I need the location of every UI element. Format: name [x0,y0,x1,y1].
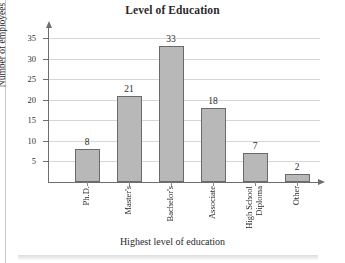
bar[interactable] [243,153,268,182]
category-label-line: Other [292,186,301,205]
x-axis-category-label: Ph.D. [82,186,91,205]
category-label-line: High School [245,186,254,229]
x-axis-line [48,182,320,183]
y-axis-arrow-icon [46,21,52,28]
bar[interactable] [75,149,100,182]
y-axis-tick-label: 30 [12,54,36,64]
y-axis-tick-label: 25 [12,74,36,84]
x-axis-category-label: Other [292,186,301,205]
x-axis-category-label: Associate [208,186,217,219]
bar[interactable] [201,108,226,182]
bar-group[interactable]: 7 [243,30,268,182]
bar-value-label: 2 [295,162,300,172]
category-label-line: Bachelor's [166,186,175,222]
x-axis-category-labels: Ph.D.Master'sBachelor'sAssociateHigh Sch… [48,186,320,234]
bar[interactable] [159,46,184,182]
category-label-line: Ph.D. [82,186,91,205]
x-axis-title: Highest level of education [0,236,345,247]
y-axis-tick-labels: 5101520253035 [12,30,36,182]
chart-title: Level of Education [0,4,345,16]
bar-value-label: 21 [124,84,134,94]
bar-value-label: 33 [166,34,176,44]
x-axis-category-label: Bachelor's [166,186,175,222]
bar[interactable] [285,174,310,182]
chart-plot-area: 821331872 [48,30,320,182]
y-axis-tick-label: 10 [12,136,36,146]
y-axis-tick-label: 5 [12,156,36,166]
category-label-line: Diploma [255,186,264,216]
bar-value-label: 18 [208,96,218,106]
y-axis-title: Number of employees [0,0,7,115]
bar-series: 821331872 [48,30,320,182]
category-label-line: Master's [124,186,133,214]
bar-group[interactable]: 33 [159,30,184,182]
y-axis-tick-label: 15 [12,115,36,125]
bar-value-label: 8 [85,137,90,147]
category-label-line: Associate [208,186,217,219]
bar-group[interactable]: 2 [285,30,310,182]
bar-group[interactable]: 21 [117,30,142,182]
y-axis-tick-label: 20 [12,95,36,105]
bar-group[interactable]: 8 [75,30,100,182]
x-axis-category-label: High SchoolDiploma [245,186,264,229]
bar[interactable] [117,96,142,182]
x-axis-category-label: Master's [124,186,133,214]
bar-group[interactable]: 18 [201,30,226,182]
bar-value-label: 7 [253,141,258,151]
y-axis-tick-label: 35 [12,33,36,43]
page-bottom-bleed-artifact [18,255,318,261]
